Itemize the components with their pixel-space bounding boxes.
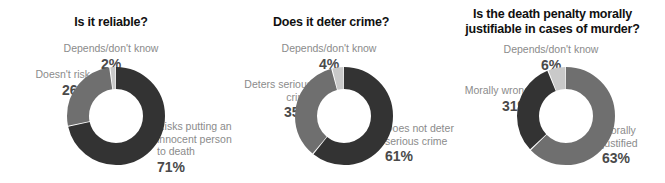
page-title-morality: Is the death penalty morally justifiable… (440, 7, 665, 36)
donut-chart-reliable (62, 62, 170, 170)
chart-panel-deter: Does it deter crime? Depends/don't know … (222, 0, 440, 183)
donut-svg-morality (512, 62, 620, 170)
label-depends-2-name: Depends/don't know (282, 42, 377, 54)
donut-svg-deter (290, 62, 398, 170)
donut-svg-reliable (62, 62, 170, 170)
page-title-reliable: Is it reliable? (0, 15, 222, 30)
infographic-root: Is it reliable? Depends/don't know 2% Do… (0, 0, 665, 183)
page-title-morality-line1: Is the death penalty morally (473, 7, 632, 21)
donut-segments-deter (306, 78, 382, 154)
label-depends-3-name: Depends/don't know (504, 43, 599, 55)
page-title-deter: Does it deter crime? (222, 15, 440, 30)
chart-panel-morality: Is the death penalty morally justifiable… (440, 0, 665, 183)
donut-segments-reliable (78, 78, 154, 154)
donut-segments-morality (528, 78, 604, 154)
donut-chart-deter (290, 62, 398, 170)
label-depends-1-name: Depends/don't know (64, 42, 159, 54)
chart-panel-reliable: Is it reliable? Depends/don't know 2% Do… (0, 0, 222, 183)
donut-chart-morality (512, 62, 620, 170)
page-title-morality-line2: justifiable in cases of murder? (465, 22, 639, 36)
